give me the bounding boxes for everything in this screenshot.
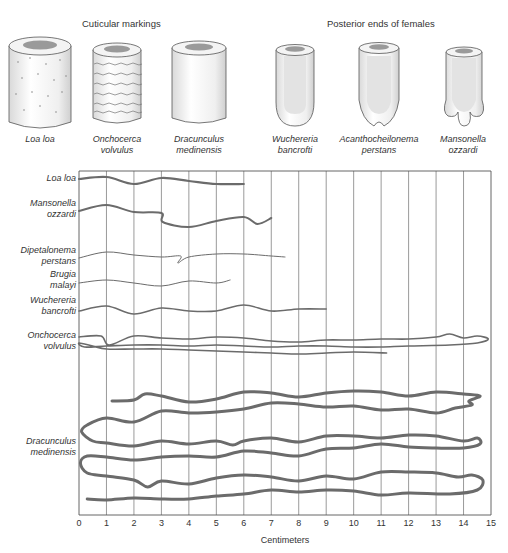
x-axis-title: Centimeters — [261, 535, 310, 545]
x-tick-label: 7 — [269, 518, 274, 528]
wuchereria-bancrofti-worm — [79, 305, 326, 314]
wuchereria-bancrofti-label: bancrofti — [41, 306, 76, 317]
x-tick-label: 13 — [431, 518, 441, 528]
dipetalonema-perstans-label: Dipetalonema — [20, 245, 76, 256]
x-tick-label: 3 — [159, 518, 164, 528]
x-tick-label: 6 — [241, 518, 246, 528]
onchocerca-volvulus-worm — [79, 334, 489, 354]
x-tick-label: 1 — [104, 518, 109, 528]
x-tick-label: 10 — [349, 518, 359, 528]
x-tick-label: 11 — [376, 518, 385, 528]
dracunculus-medinensis-label: medinensis — [30, 447, 76, 458]
x-tick-label: 5 — [214, 518, 219, 528]
x-tick-label: 0 — [76, 518, 81, 528]
mansonella-ozzardi-label: ozzardi — [47, 209, 76, 220]
brugia-malayi-label: malayi — [50, 280, 76, 291]
x-tick-label: 12 — [404, 518, 414, 528]
brugia-malayi-label: Brugia — [50, 269, 76, 280]
worm-length-chart — [0, 0, 508, 553]
x-tick-label: 15 — [486, 518, 496, 528]
mansonella-ozzardi-worm — [79, 205, 271, 227]
dracunculus-medinensis-worm — [80, 391, 483, 500]
mansonella-ozzardi-label: Mansonella — [30, 198, 76, 209]
x-tick-label: 2 — [131, 518, 136, 528]
dracunculus-medinensis-label: Dracunculus — [26, 436, 76, 447]
x-tick-label: 9 — [324, 518, 329, 528]
wuchereria-bancrofti-label: Wuchereria — [30, 295, 76, 306]
centimeter-grid — [79, 171, 491, 515]
dipetalonema-perstans-label: perstans — [41, 256, 76, 267]
brugia-malayi-worm — [79, 280, 230, 286]
dipetalonema-perstans-worm — [79, 252, 285, 263]
onchocerca-volvulus-label: Onchocerca — [27, 330, 76, 341]
onchocerca-volvulus-label: volvulus — [43, 341, 76, 352]
x-tick-label: 4 — [186, 518, 191, 528]
loa-loa-label: Loa loa — [46, 173, 76, 184]
x-tick-label: 8 — [296, 518, 301, 528]
x-tick-label: 14 — [459, 518, 469, 528]
worm-lines — [79, 177, 489, 500]
